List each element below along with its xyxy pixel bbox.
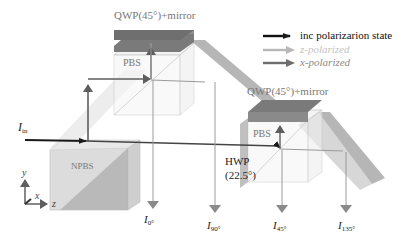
incident-beam [25, 140, 86, 141]
label-hwp-angle: (22.5°) [225, 169, 256, 181]
label-output-135: I135° [338, 219, 355, 233]
label-npbs: NPBS [71, 161, 94, 171]
label-pbs-right: PBS [253, 128, 271, 139]
label-qwp-mirror-top: QWP(45°)+mirror [114, 9, 195, 21]
legend-label-z-polarized: z-polarized [300, 43, 350, 55]
npbs-cube [50, 140, 140, 210]
label-input-intensity: Iin [18, 120, 27, 135]
label-pbs-top: PBS [123, 57, 141, 68]
axis-label-y: y [22, 167, 26, 178]
axis-label-x: x [35, 190, 39, 201]
qwp-mirror-top [114, 30, 194, 52]
optical-setup-diagram: QWP(45°)+mirror QWP(45°)+mirror PBS PBS … [0, 0, 411, 240]
label-output-90: I90° [207, 219, 220, 233]
axis-label-z: z [52, 198, 56, 209]
label-output-0: I0° [144, 213, 154, 227]
label-output-45: I45° [273, 219, 286, 233]
legend-label-x-polarized: x-polarized [300, 56, 350, 68]
legend-label-incident: inc polarizarion state [300, 29, 392, 41]
label-qwp-mirror-right: QWP(45°)+mirror [247, 85, 328, 97]
label-hwp: HWP [225, 155, 249, 167]
